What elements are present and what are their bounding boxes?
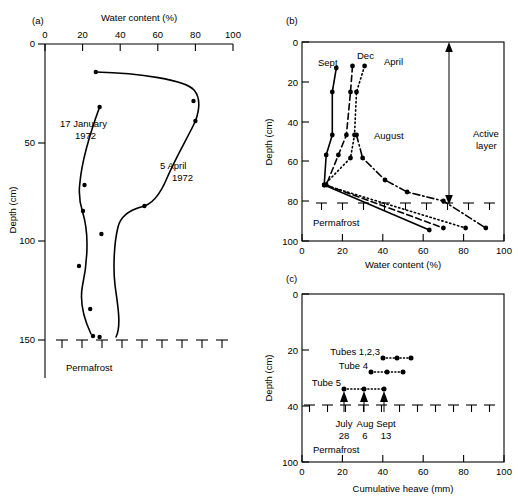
panel-a-ytick-100: 100 (19, 235, 35, 246)
panel-c-ytick-0: 0 (293, 289, 298, 300)
panel-a-label-april-line1: 5 April (160, 160, 186, 171)
panel-b-ytick-40: 40 (287, 117, 298, 128)
panel-a-xtick-60: 60 (153, 29, 164, 40)
panel-b-ytick-80: 80 (287, 196, 298, 207)
panel-c-xtick-20: 20 (337, 466, 348, 477)
panel-b-ytick-100: 100 (282, 236, 298, 247)
panel-c-tag: (c) (286, 273, 297, 284)
panel-a: (a) Water content (%) 0 20 40 60 80 100 … (7, 12, 241, 378)
panel-c-date2-line2: 6 (362, 430, 367, 441)
panel-a-ytick-0: 0 (30, 38, 35, 49)
panel-c-date2-line1: Aug (357, 418, 374, 429)
panel-c-x-ticks (302, 455, 504, 462)
panel-c-date1-line1: July (336, 418, 353, 429)
panel-a-x-ticks (45, 44, 233, 51)
panel-b-label-sept: Sept (318, 57, 338, 68)
panel-c-row1-label: Tubes 1,2,3 (330, 346, 380, 357)
panel-c-xtick-80: 80 (458, 466, 469, 477)
figure-svg: (a) Water content (%) 0 20 40 60 80 100 … (0, 0, 518, 503)
panel-b-xtick-100: 100 (496, 245, 512, 256)
panel-c-ytick-100: 100 (282, 457, 298, 468)
panel-c-date3-line1: Sept (376, 418, 396, 429)
panel-a-xtick-40: 40 (115, 29, 126, 40)
panel-a-curve-january (79, 107, 99, 334)
panel-b-y-ticks (302, 42, 309, 241)
panel-b-ytick-20: 20 (287, 77, 298, 88)
panel-c-xtick-60: 60 (418, 466, 429, 477)
panel-a-label-january-line2: 1972 (75, 130, 96, 141)
panel-b-points-april (322, 64, 468, 231)
panel-b-xtick-0: 0 (299, 245, 304, 256)
panel-a-y-title: Depth (cm) (7, 187, 18, 234)
panel-c-xtick-40: 40 (378, 466, 389, 477)
panel-c-row2-label: Tube 4 (339, 360, 368, 371)
figure-root: (a) Water content (%) 0 20 40 60 80 100 … (0, 0, 518, 503)
panel-c-ytick-20: 20 (287, 345, 298, 356)
panel-c-permafrost-label: Permafrost (313, 444, 360, 455)
panel-a-xtick-80: 80 (190, 29, 201, 40)
panel-a-ytick-150: 150 (19, 334, 35, 345)
panel-c-row3-label: Tube 5 (312, 377, 341, 388)
panel-a-xtick-100: 100 (225, 29, 241, 40)
panel-b-xtick-60: 60 (418, 245, 429, 256)
panel-b-xtick-80: 80 (458, 245, 469, 256)
panel-a-x-title: Water content (%) (101, 12, 177, 23)
panel-b-frame (302, 42, 504, 241)
panel-b-active-layer-label-1: Active (473, 128, 499, 139)
panel-b-ytick-60: 60 (287, 156, 298, 167)
panel-a-curve-april (96, 72, 199, 337)
panel-b: (b) 0 20 40 60 80 100 0 20 40 60 (263, 15, 512, 270)
panel-c-date1-line2: 28 (339, 430, 350, 441)
panel-b-curve-august (357, 135, 486, 228)
panel-a-permafrost-symbols (56, 340, 228, 348)
panel-b-x-ticks (302, 234, 504, 241)
panel-c-x-title: Cumulative heave (mm) (353, 483, 454, 494)
panel-b-points-august (354, 133, 488, 231)
panel-b-curve-sept (324, 68, 429, 230)
panel-c-permafrost-symbols (304, 405, 495, 412)
panel-c-xtick-100: 100 (496, 466, 512, 477)
panel-c: (c) 0 20 40 100 0 20 40 60 80 100 Cumula… (263, 273, 512, 494)
panel-b-label-april: April (384, 56, 403, 67)
panel-a-y-ticks (38, 44, 45, 340)
panel-b-label-august: August (374, 130, 404, 141)
panel-c-date3-line2: 13 (381, 430, 392, 441)
panel-b-xtick-20: 20 (337, 245, 348, 256)
panel-b-x-title: Water content (%) (365, 259, 441, 270)
panel-c-y-ticks (302, 294, 309, 462)
panel-b-ytick-0: 0 (293, 37, 298, 48)
panel-a-points-april (88, 70, 198, 339)
panel-a-permafrost-label: Permafrost (66, 362, 113, 373)
panel-a-xtick-20: 20 (77, 29, 88, 40)
panel-b-permafrost-symbols (316, 203, 495, 210)
panel-b-curve-april (324, 66, 465, 228)
panel-c-ytick-40: 40 (287, 401, 298, 412)
panel-a-xtick-0: 0 (42, 29, 47, 40)
panel-c-y-title: Depth (cm) (263, 355, 274, 402)
panel-b-label-dec: Dec (357, 50, 374, 61)
panel-c-xtick-0: 0 (299, 466, 304, 477)
panel-b-xtick-40: 40 (378, 245, 389, 256)
panel-c-row1-points (381, 356, 414, 361)
panel-b-tag: (b) (286, 15, 298, 26)
panel-a-label-january-line1: 17 January (60, 118, 107, 129)
panel-b-active-layer-label-2: layer (476, 140, 497, 151)
panel-a-ytick-50: 50 (24, 137, 35, 148)
panel-a-tag: (a) (32, 15, 44, 26)
panel-a-label-april-line2: 1972 (172, 172, 193, 183)
panel-b-active-layer-arrow (445, 42, 453, 205)
panel-b-y-title: Depth (cm) (263, 119, 274, 166)
panel-b-permafrost-label: Permafrost (313, 217, 360, 228)
